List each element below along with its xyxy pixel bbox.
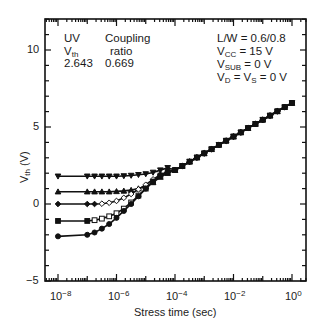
data-series (55, 100, 295, 239)
tick-base: 10 (50, 290, 62, 302)
tick-base: 10 (108, 290, 120, 302)
x-tick-1e0: 100 (285, 290, 302, 302)
tick-exp: 0 (297, 289, 301, 298)
vcc-main: V (217, 45, 225, 57)
y-axis-label: Vth (V) (18, 151, 30, 183)
vd-main: V (217, 71, 225, 83)
vth-main: V (64, 45, 72, 57)
vs-main: = V (230, 71, 251, 83)
x-tick-1e-4: 10−4 (166, 290, 187, 302)
x-tick-1e-6: 10−6 (108, 290, 129, 302)
x-axis-label: Stress time (sec) (134, 306, 217, 318)
x-tick-1e-2: 10−2 (224, 290, 245, 302)
vcc-value: = 15 V (236, 45, 273, 57)
uv-label: UV (64, 32, 80, 45)
coupling-label: Coupling (105, 32, 150, 45)
vd-vs-value: = 0 V (257, 71, 287, 83)
y-tick-minus5: −5 (26, 274, 39, 286)
tick-exp: −2 (236, 289, 245, 298)
tick-base: 10 (224, 290, 236, 302)
vd-vs-condition: VD = VS = 0 V (217, 71, 287, 84)
tick-exp: −6 (120, 289, 129, 298)
coupling-ratio-value: 0.669 (105, 57, 134, 70)
y-tick-0: 0 (33, 197, 39, 209)
y-tick-10: 10 (27, 43, 39, 55)
vcc-condition: VCC = 15 V (217, 45, 273, 58)
ylabel-main: V (18, 176, 30, 183)
vth-label: Vth (64, 45, 78, 58)
tick-exp: −4 (178, 289, 187, 298)
tick-base: 10 (285, 290, 297, 302)
uv-vth-value: 2.643 (64, 57, 93, 70)
chart-canvas (0, 0, 322, 328)
tick-exp: −8 (62, 289, 71, 298)
ylabel-unit: (V) (18, 151, 30, 169)
vsub-main: V (217, 58, 225, 70)
ratio-label: ratio (110, 45, 132, 58)
tick-base: 10 (166, 290, 178, 302)
lw-condition: L/W = 0.6/0.8 (217, 32, 286, 45)
ylabel-sub: th (23, 169, 32, 176)
x-tick-1e-8: 10−8 (50, 290, 71, 302)
vsub-condition: VSUB = 0 V (217, 58, 272, 71)
y-tick-5: 5 (33, 120, 39, 132)
vsub-value: = 0 V (241, 58, 271, 70)
